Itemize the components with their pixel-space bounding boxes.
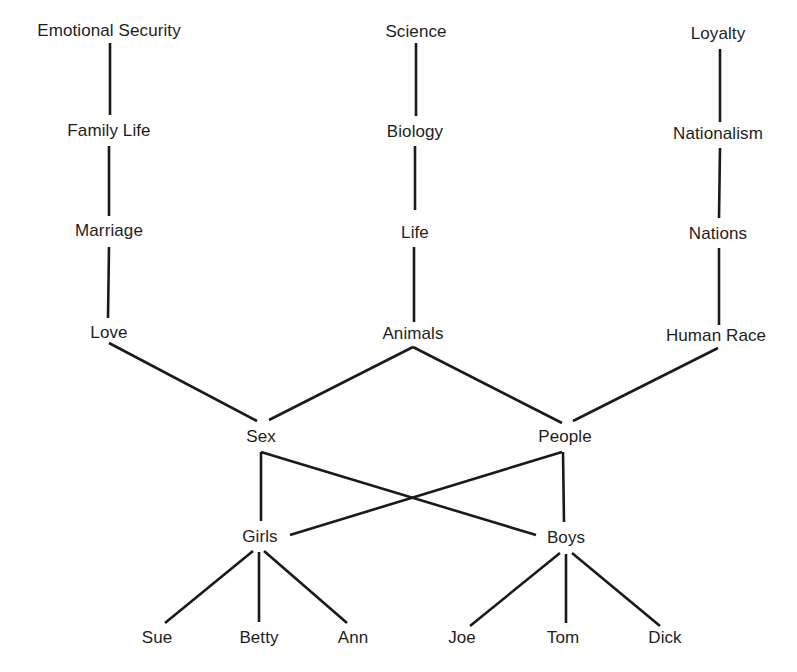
- node-girls: Girls: [242, 528, 277, 545]
- edge-people-to-girls: [290, 452, 562, 535]
- edge-boys-to-dick: [572, 553, 660, 626]
- node-loyalty: Loyalty: [691, 25, 746, 42]
- edge-people-to-boys: [563, 452, 564, 522]
- node-betty: Betty: [239, 629, 278, 646]
- edge-love-to-sex: [109, 343, 257, 421]
- node-boys: Boys: [547, 529, 585, 546]
- node-nationalism: Nationalism: [673, 125, 763, 142]
- edge-girls-to-sue: [165, 551, 253, 623]
- node-marriage: Marriage: [75, 222, 143, 239]
- node-biology: Biology: [387, 123, 443, 140]
- node-tom: Tom: [547, 629, 579, 646]
- edge-animals-to-people: [413, 347, 562, 423]
- node-emotional-security: Emotional Security: [37, 22, 181, 39]
- node-love: Love: [90, 324, 127, 341]
- node-human-race: Human Race: [666, 327, 766, 344]
- node-ann: Ann: [338, 629, 369, 646]
- node-family-life: Family Life: [67, 122, 150, 139]
- node-joe: Joe: [448, 629, 476, 646]
- edge-girls-to-ann: [264, 551, 347, 623]
- edge-human-race-to-people: [573, 348, 718, 421]
- edge-animals-to-sex: [269, 347, 413, 420]
- abstraction-ladder-diagram: Emotional SecurityFamily LifeMarriageLov…: [0, 0, 797, 672]
- node-life: Life: [401, 224, 429, 241]
- node-sue: Sue: [142, 629, 173, 646]
- edge-marriage-to-love: [108, 247, 109, 318]
- node-sex: Sex: [246, 428, 276, 445]
- edge-sex-to-boys: [261, 452, 536, 535]
- node-animals: Animals: [382, 325, 443, 342]
- node-nations: Nations: [689, 225, 747, 242]
- node-dick: Dick: [648, 629, 681, 646]
- edge-nationalism-to-nations: [719, 148, 720, 218]
- edge-boys-to-joe: [470, 553, 560, 626]
- node-science: Science: [385, 23, 446, 40]
- node-people: People: [538, 428, 592, 445]
